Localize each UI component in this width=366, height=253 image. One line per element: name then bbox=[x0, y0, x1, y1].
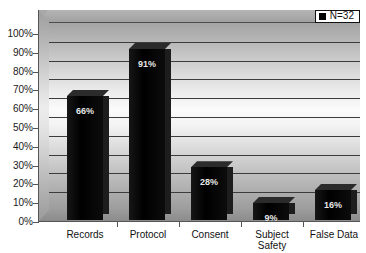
bar-side-face bbox=[351, 190, 357, 214]
y-axis-label: 50% bbox=[13, 123, 33, 133]
y-axis-tick bbox=[33, 128, 39, 129]
bar-side-face bbox=[289, 203, 295, 214]
bar-side-face bbox=[165, 49, 171, 214]
bar-side-face bbox=[227, 167, 233, 214]
bar[interactable]: 9% bbox=[253, 197, 295, 220]
x-axis-line bbox=[38, 221, 360, 222]
y-axis-label: 70% bbox=[13, 85, 33, 95]
y-axis-tick bbox=[33, 34, 39, 35]
x-axis-tick bbox=[241, 222, 242, 227]
bar-front-face bbox=[191, 167, 227, 220]
y-axis-label: 40% bbox=[13, 142, 33, 152]
legend-swatch-icon bbox=[319, 13, 326, 20]
y-axis-tick bbox=[33, 90, 39, 91]
gridline bbox=[49, 42, 360, 43]
bar[interactable]: 91% bbox=[129, 43, 171, 220]
bar-value-label: 16% bbox=[315, 200, 351, 210]
y-axis-label: 0% bbox=[19, 217, 33, 227]
bar-chart: 100%90%80%70%60%50%40%30%20%10%0% 66%91%… bbox=[0, 0, 366, 253]
bar-value-label: 66% bbox=[67, 106, 103, 116]
bar[interactable]: 28% bbox=[191, 161, 233, 220]
x-axis-category-label: Consent bbox=[179, 229, 241, 240]
bar-front-face bbox=[129, 49, 165, 220]
bar-side-face bbox=[103, 96, 109, 214]
y-axis-label: 90% bbox=[13, 48, 33, 58]
y-axis-label: 80% bbox=[13, 67, 33, 77]
bar-value-label: 28% bbox=[191, 177, 227, 187]
gridline bbox=[49, 79, 360, 80]
bar-value-label: 9% bbox=[253, 213, 289, 223]
y-axis-tick bbox=[33, 166, 39, 167]
y-axis-tick bbox=[33, 203, 39, 204]
y-axis-label: 100% bbox=[7, 29, 33, 39]
x-axis-tick bbox=[303, 222, 304, 227]
y-axis-tick bbox=[33, 53, 39, 54]
y-axis-label: 10% bbox=[13, 198, 33, 208]
legend[interactable]: N=32 bbox=[315, 10, 360, 23]
x-axis-tick bbox=[179, 222, 180, 227]
y-axis-tick bbox=[33, 184, 39, 185]
legend-label: N=32 bbox=[330, 11, 354, 21]
y-axis-tick bbox=[33, 109, 39, 110]
bar[interactable]: 16% bbox=[315, 184, 357, 220]
bar-value-label: 91% bbox=[129, 59, 165, 69]
y-axis-label: 30% bbox=[13, 161, 33, 171]
y-axis-tick bbox=[33, 72, 39, 73]
x-axis-category-label: Records bbox=[54, 229, 116, 240]
gridline bbox=[49, 61, 360, 62]
y-axis-tick bbox=[33, 147, 39, 148]
x-axis-category-label: False Data bbox=[303, 229, 365, 240]
y-axis-line bbox=[38, 10, 39, 222]
y-axis-tick bbox=[33, 222, 39, 223]
x-axis-category-label: Protocol bbox=[117, 229, 179, 240]
y-axis-label: 20% bbox=[13, 179, 33, 189]
x-axis-category-label: Subject Safety bbox=[241, 229, 303, 251]
chart-left-wall bbox=[38, 10, 49, 222]
bar[interactable]: 66% bbox=[67, 90, 109, 220]
y-axis-label: 60% bbox=[13, 104, 33, 114]
x-axis-tick bbox=[117, 222, 118, 227]
